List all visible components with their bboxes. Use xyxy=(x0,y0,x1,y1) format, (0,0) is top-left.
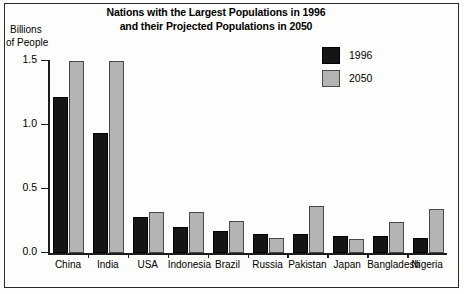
legend-label-1996: 1996 xyxy=(349,49,372,61)
x-axis-category-label: Japan xyxy=(327,259,367,270)
x-axis-category-label: India xyxy=(88,259,128,270)
x-axis-category-label: Nigeria xyxy=(407,259,447,270)
bar-japan-1996 xyxy=(333,236,348,253)
x-axis-tick xyxy=(327,253,329,258)
bar-group xyxy=(253,61,284,253)
bar-indonesia-1996 xyxy=(173,227,188,253)
bar-nigeria-1996 xyxy=(413,238,428,253)
x-axis-category-label: Brazil xyxy=(208,259,248,270)
bar-india-2050 xyxy=(109,61,124,253)
x-axis-tick xyxy=(367,253,369,258)
bar-nigeria-2050 xyxy=(429,209,444,253)
y-axis-label: Billions of People xyxy=(10,24,48,49)
chart-title-line-2: and their Projected Populations in 2050 xyxy=(56,20,376,34)
x-axis-category-label: China xyxy=(48,259,88,270)
x-axis-tick xyxy=(168,253,170,258)
y-axis-tick-label: 1.0 xyxy=(22,117,37,129)
x-axis-category-label: Pakistan xyxy=(287,259,327,270)
y-axis-line xyxy=(48,60,50,254)
x-axis-category-label: Bangladesh xyxy=(367,259,407,270)
y-axis-tick-label: 1.5 xyxy=(22,53,37,65)
bar-group xyxy=(133,61,164,253)
y-axis-tick: 1.5 xyxy=(41,60,49,62)
bar-pakistan-2050 xyxy=(309,206,324,253)
x-axis-tick xyxy=(208,253,210,258)
bar-india-1996 xyxy=(93,133,108,253)
x-axis-category-label: Russia xyxy=(248,259,288,270)
bar-group xyxy=(93,61,124,253)
bar-bangladesh-2050 xyxy=(389,222,404,253)
x-axis-tick xyxy=(287,253,289,258)
x-axis-category-label: USA xyxy=(128,259,168,270)
x-axis-tick xyxy=(128,253,130,258)
bar-group xyxy=(173,61,204,253)
chart-title-line-1: Nations with the Largest Populations in … xyxy=(56,6,376,20)
bar-brazil-2050 xyxy=(229,221,244,253)
x-axis-tick xyxy=(248,253,250,258)
x-axis-tick xyxy=(88,253,90,258)
bar-group xyxy=(413,61,444,253)
bar-group xyxy=(213,61,244,253)
y-axis-label-line-1: Billions xyxy=(10,24,48,37)
x-axis-tick xyxy=(407,253,409,258)
y-axis-tick: 0.0 xyxy=(41,252,49,254)
y-axis-tick: 0.5 xyxy=(41,188,49,190)
bar-japan-2050 xyxy=(349,239,364,253)
bar-group xyxy=(293,61,324,253)
bar-china-1996 xyxy=(53,97,68,253)
bar-group xyxy=(373,61,404,253)
bar-indonesia-2050 xyxy=(189,212,204,253)
bar-group xyxy=(333,61,364,253)
bar-pakistan-1996 xyxy=(293,234,308,253)
bar-russia-1996 xyxy=(253,234,268,253)
x-axis-category-label: Indonesia xyxy=(168,259,208,270)
plot-area: 0.00.51.01.5ChinaIndiaUSAIndonesiaBrazil… xyxy=(48,61,447,253)
y-axis-tick-label: 0.0 xyxy=(22,245,37,257)
bar-russia-2050 xyxy=(269,238,284,253)
bar-brazil-1996 xyxy=(213,231,228,253)
bar-bangladesh-1996 xyxy=(373,236,388,253)
bar-china-2050 xyxy=(69,61,84,253)
chart-screenshot: Nations with the Largest Populations in … xyxy=(0,0,464,294)
bar-group xyxy=(53,61,84,253)
chart-title: Nations with the Largest Populations in … xyxy=(56,6,376,33)
y-axis-tick: 1.0 xyxy=(41,124,49,126)
y-axis-tick-label: 0.5 xyxy=(22,181,37,193)
bar-usa-1996 xyxy=(133,217,148,253)
bar-usa-2050 xyxy=(149,212,164,253)
y-axis-label-line-2: of People xyxy=(6,37,48,50)
